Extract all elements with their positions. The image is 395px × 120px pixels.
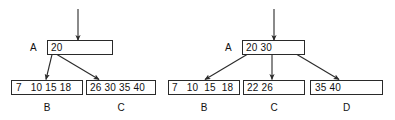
right-leaf-c-label: C <box>243 102 305 113</box>
right-leaf-b-label: B <box>168 102 240 113</box>
right-leaf-d-label: D <box>310 102 383 113</box>
right-root-pointer-label: A <box>225 42 232 53</box>
left-leaf-c-keys: 26 30 35 40 <box>90 82 145 93</box>
edge-right-root-to-leaf-b <box>205 55 247 80</box>
left-leaf-c-label: C <box>86 102 156 113</box>
btree-split-figure: A 20 7 10 15 18 B 26 30 35 40 C A 20 30 … <box>0 0 395 120</box>
right-leaf-c-keys: 22 26 <box>247 82 273 93</box>
right-leaf-b-keys: 7 10 15 18 <box>172 82 233 93</box>
left-root-keys: 20 <box>51 42 63 53</box>
left-root-pointer-label: A <box>30 42 37 53</box>
edge-right-root-to-leaf-d <box>297 55 339 80</box>
right-root-keys: 20 30 <box>246 42 272 53</box>
left-leaf-b-label: B <box>11 102 83 113</box>
left-leaf-b-keys: 7 10 15 18 <box>16 82 71 93</box>
edge-left-root-to-leaf-c <box>57 55 99 80</box>
right-leaf-d-keys: 35 40 <box>315 82 341 93</box>
edge-left-root-to-leaf-b <box>46 55 52 80</box>
